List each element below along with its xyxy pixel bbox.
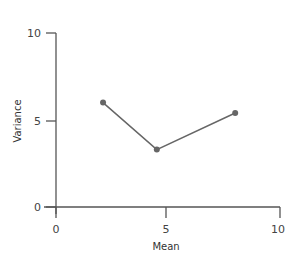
y-axis: 10 5 0 Variance: [12, 27, 56, 214]
y-tick-label-10: 10: [27, 27, 41, 40]
x-tick-label-5: 5: [163, 223, 170, 236]
data-series: [100, 100, 238, 153]
data-point: [100, 100, 106, 106]
data-point: [232, 110, 238, 116]
series-line: [103, 103, 235, 150]
x-tick-label-0: 0: [53, 223, 60, 236]
y-axis-label: Variance: [12, 99, 23, 142]
y-tick-label-0: 0: [34, 201, 41, 214]
data-point: [154, 147, 160, 153]
x-axis: 0 5 10 Mean: [44, 207, 285, 252]
y-tick-label-5: 5: [34, 115, 41, 128]
x-tick-label-10: 10: [271, 223, 285, 236]
x-axis-label: Mean: [152, 241, 179, 252]
line-chart: 10 5 0 Variance 0 5 10 Mean: [0, 0, 291, 259]
